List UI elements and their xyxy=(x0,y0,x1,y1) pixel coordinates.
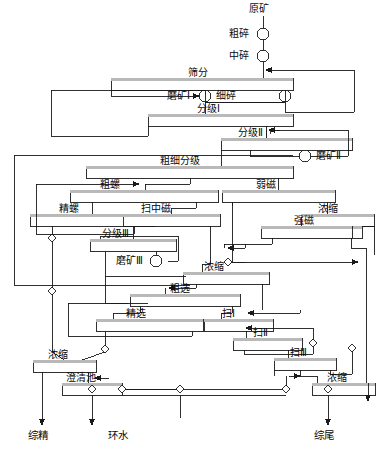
unit-label-classify-3: 分级Ⅲ xyxy=(102,228,129,239)
unit-label-fine-spiral: 精螺 xyxy=(59,203,79,214)
terminal-recycled-water: 环水 xyxy=(108,430,128,441)
unit-label-classify-2: 分级Ⅱ xyxy=(238,127,263,138)
unit-label-rougher: 粗选 xyxy=(170,283,190,294)
unit-label-thickener-3: 浓缩 xyxy=(48,349,68,360)
unit-label-fine-crush: 细碎 xyxy=(216,90,236,101)
unit-label-thickener-2: 浓缩 xyxy=(204,261,224,272)
unit-label-coarse-fine-classify: 粗细分级 xyxy=(160,155,200,166)
unit-label-strong-magnetic: 强磁 xyxy=(294,215,314,226)
unit-label-coarse-spiral: 粗螺 xyxy=(100,179,120,190)
unit-label-scav-mid-magnetic: 扫中磁 xyxy=(141,203,171,214)
unit-label-scavenger-3: 扫Ⅲ xyxy=(290,347,307,358)
unit-label-coarse-crush: 粗碎 xyxy=(229,28,249,39)
unit-label-cleaner: 精选 xyxy=(126,308,146,319)
unit-label-scavenger-1: 扫Ⅰ xyxy=(222,308,235,319)
unit-label-grinding-2: 磨矿Ⅱ xyxy=(316,150,341,161)
unit-label-clarifier: 澄清池 xyxy=(66,372,96,383)
unit-label-thickener-4: 浓缩 xyxy=(327,372,347,383)
unit-label-screening: 筛分 xyxy=(188,67,208,78)
unit-label-grinding-1: 磨矿Ⅰ xyxy=(167,90,190,101)
flowsheet-diagram: 原矿 粗碎 中碎 细碎 磨矿Ⅰ 磨矿Ⅱ 磨矿Ⅲ 筛分 分级Ⅰ 分级Ⅱ 粗细分级 … xyxy=(0,0,387,455)
terminal-combined-concentrate: 综精 xyxy=(28,430,48,441)
unit-label-weak-magnetic: 弱磁 xyxy=(256,179,276,190)
unit-label-grinding-3: 磨矿Ⅲ xyxy=(116,255,143,266)
unit-label-classify-1: 分级Ⅰ xyxy=(197,103,220,114)
unit-label-thickener-1: 浓缩 xyxy=(318,203,338,214)
unit-label-scavenger-2: 扫Ⅱ xyxy=(253,327,268,338)
unit-label-medium-crush: 中碎 xyxy=(229,50,249,61)
terminal-combined-tailings: 综尾 xyxy=(314,430,334,441)
feed-label: 原矿 xyxy=(249,3,269,14)
